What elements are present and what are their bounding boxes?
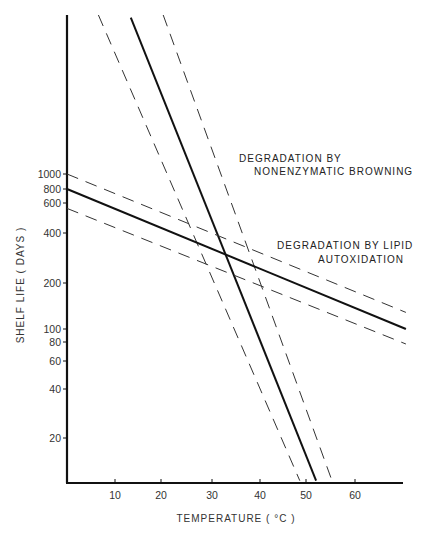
y-tick-label: 400 [43,227,61,239]
y-tick-label: 80 [49,336,61,348]
x-tick-label: 10 [109,489,121,501]
annotation-browning-line2: NONENZYMATIC BROWNING [254,166,413,177]
y-tick-label: 100 [43,323,61,335]
y-tick-label: 800 [43,183,61,195]
y-tick-label: 60 [49,355,61,367]
x-tick-label: 40 [254,489,266,501]
y-axis-title: SHELF LIFE ( DAYS ) [15,227,26,344]
x-tick-label: 20 [155,489,167,501]
y-tick-label: 200 [43,277,61,289]
x-axis-title: TEMPERATURE ( °C ) [176,513,295,524]
annotation-browning-line1: DEGRADATION BY [239,153,342,164]
annotation-lipid-line2: AUTOXIDATION [318,254,404,265]
y-ticks: 204060801002004006008001000 [38,168,67,444]
line-nonenzymatic-browning-lower-bound [98,15,299,481]
y-tick-label: 600 [43,197,61,209]
x-tick-label: 30 [206,489,218,501]
annotation-lipid-line1: DEGRADATION BY LIPID [277,240,413,251]
shelf-life-chart: 102030405060 204060801002004006008001000… [0,0,424,534]
line-lipid-autoxidation-lower-bound [67,208,406,344]
x-tick-label: 50 [300,489,312,501]
y-tick-label: 40 [49,383,61,395]
y-tick-label: 1000 [38,168,62,180]
x-tick-label: 60 [349,489,361,501]
y-tick-label: 20 [49,432,61,444]
